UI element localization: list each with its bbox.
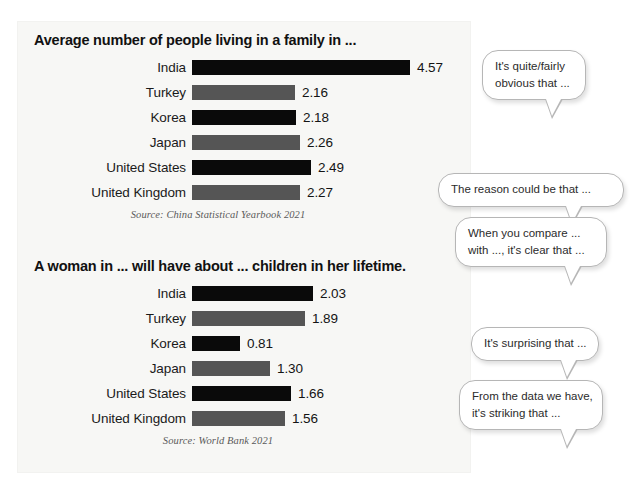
chart-source: Source: China Statistical Yearbook 2021 (18, 209, 470, 220)
bubble-tail-icon (545, 99, 563, 119)
bubble-text-line: it's striking that ... (472, 405, 590, 422)
bar-track: 2.49 (192, 155, 470, 180)
bar (192, 160, 311, 175)
speech-bubble-reason: The reason could be that ... (438, 173, 624, 207)
bar-category-label: Japan (18, 135, 192, 150)
chart-title: A woman in ... will have about ... child… (34, 258, 470, 274)
bar-row: Korea0.81 (18, 331, 470, 356)
bar-category-label: Korea (18, 110, 192, 125)
bar-row: United Kingdom2.27 (18, 180, 470, 205)
bubble-tail-icon (560, 429, 578, 449)
bar-value-label: 2.26 (307, 135, 333, 150)
bar-value-label: 2.49 (318, 160, 344, 175)
bubble-text-line: The reason could be that ... (451, 181, 611, 198)
bar-row: Korea2.18 (18, 105, 470, 130)
bar-value-label: 2.16 (302, 85, 328, 100)
speech-bubble-compare: When you compare ...with ..., it's clear… (455, 217, 607, 267)
bar (192, 286, 313, 301)
bar-track: 0.81 (192, 331, 470, 356)
bubble-text-line: From the data we have, (472, 388, 590, 405)
bar-track: 2.03 (192, 281, 470, 306)
bubble-tail-icon (560, 360, 578, 380)
bar-row: India4.57 (18, 55, 470, 80)
chart-fertility-rate: A woman in ... will have about ... child… (18, 258, 470, 446)
bubble-text-line: obvious that ... (495, 75, 573, 92)
bar-track: 2.26 (192, 130, 470, 155)
bar-category-label: Turkey (18, 85, 192, 100)
bar (192, 60, 410, 75)
bar-category-label: United States (18, 160, 192, 175)
bar-value-label: 2.03 (320, 286, 346, 301)
bubble-tail-icon (564, 266, 582, 286)
bar-row: India2.03 (18, 281, 470, 306)
bar-track: 2.27 (192, 180, 470, 205)
bar-value-label: 1.89 (312, 311, 338, 326)
bar (192, 110, 296, 125)
chart-source: Source: World Bank 2021 (18, 435, 470, 446)
bar-category-label: United Kingdom (18, 411, 192, 426)
bar (192, 185, 300, 200)
bar-value-label: 2.18 (303, 110, 329, 125)
bar-rows: India4.57Turkey2.16Korea2.18Japan2.26Uni… (18, 55, 470, 205)
bar-track: 1.56 (192, 406, 470, 431)
speech-bubble-obvious: It's quite/fairlyobvious that ... (482, 50, 586, 100)
bar-rows: India2.03Turkey1.89Korea0.81Japan1.30Uni… (18, 281, 470, 431)
bar-value-label: 1.56 (292, 411, 318, 426)
bar-value-label: 2.27 (307, 185, 333, 200)
bar (192, 361, 270, 376)
bar-track: 2.18 (192, 105, 470, 130)
bar-row: Turkey1.89 (18, 306, 470, 331)
bar-track: 2.16 (192, 80, 470, 105)
bar-row: United States1.66 (18, 381, 470, 406)
chart-title: Average number of people living in a fam… (34, 32, 470, 48)
speech-bubble-surprising: It's surprising that ... (471, 327, 599, 361)
bar-track: 1.89 (192, 306, 470, 331)
chart-family-size: Average number of people living in a fam… (18, 32, 470, 220)
bar (192, 386, 291, 401)
bar-track: 1.30 (192, 356, 470, 381)
bubble-text-line: It's quite/fairly (495, 58, 573, 75)
bar-category-label: United Kingdom (18, 185, 192, 200)
bar-category-label: United States (18, 386, 192, 401)
bubble-text-line: It's surprising that ... (484, 335, 586, 352)
bar (192, 311, 305, 326)
bar-track: 1.66 (192, 381, 470, 406)
bar-row: United States2.49 (18, 155, 470, 180)
bar-category-label: India (18, 286, 192, 301)
bar-row: Japan2.26 (18, 130, 470, 155)
bar-value-label: 0.81 (247, 336, 273, 351)
bar-value-label: 1.30 (277, 361, 303, 376)
bar-category-label: Japan (18, 361, 192, 376)
bar (192, 135, 300, 150)
bar-category-label: Korea (18, 336, 192, 351)
bar-category-label: India (18, 60, 192, 75)
bar-category-label: Turkey (18, 311, 192, 326)
speech-bubble-striking: From the data we have,it's striking that… (459, 380, 603, 430)
bar-row: Turkey2.16 (18, 80, 470, 105)
bubble-text-line: with ..., it's clear that ... (468, 242, 594, 259)
bar-track: 4.57 (192, 55, 470, 80)
bar-value-label: 1.66 (298, 386, 324, 401)
bar-row: Japan1.30 (18, 356, 470, 381)
bar (192, 336, 240, 351)
bar-row: United Kingdom1.56 (18, 406, 470, 431)
bar-value-label: 4.57 (417, 60, 443, 75)
bubble-text-line: When you compare ... (468, 225, 594, 242)
bar (192, 411, 285, 426)
bar (192, 85, 295, 100)
